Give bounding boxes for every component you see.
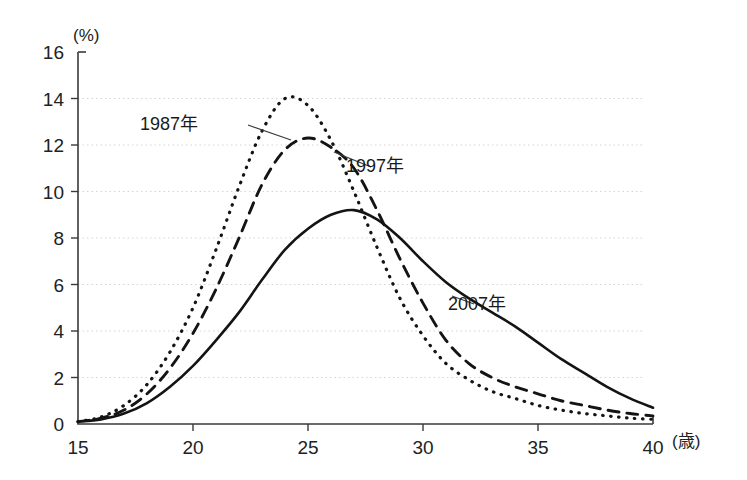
y-tick-label-14: 14 [43, 89, 65, 110]
y-tick-label-0: 0 [53, 414, 64, 435]
x-tick-label-30: 30 [412, 437, 433, 458]
y-tick-label-16: 16 [43, 42, 64, 63]
x-axis-unit-label: (歳) [672, 432, 700, 451]
y-tick-label-8: 8 [53, 228, 64, 249]
y-tick-label-6: 6 [53, 275, 64, 296]
series-label-2007年: 2007年 [448, 294, 506, 314]
y-tick-label-10: 10 [43, 182, 64, 203]
x-tick-label-15: 15 [67, 437, 88, 458]
x-tick-label-40: 40 [642, 437, 663, 458]
x-tick-label-35: 35 [527, 437, 548, 458]
series-label-1987年: 1987年 [140, 114, 198, 134]
series-label-1997年: 1997年 [346, 156, 404, 176]
x-tick-label-20: 20 [182, 437, 203, 458]
y-tick-label-2: 2 [53, 368, 64, 389]
line-chart: 0246810121416 152025303540 1987年1997年200… [0, 0, 747, 480]
y-tick-label-4: 4 [53, 321, 64, 342]
y-axis-unit-label: (%) [73, 26, 99, 45]
y-tick-label-12: 12 [43, 135, 64, 156]
chart-container: 0246810121416 152025303540 1987年1997年200… [0, 0, 747, 480]
x-tick-label-25: 25 [297, 437, 318, 458]
